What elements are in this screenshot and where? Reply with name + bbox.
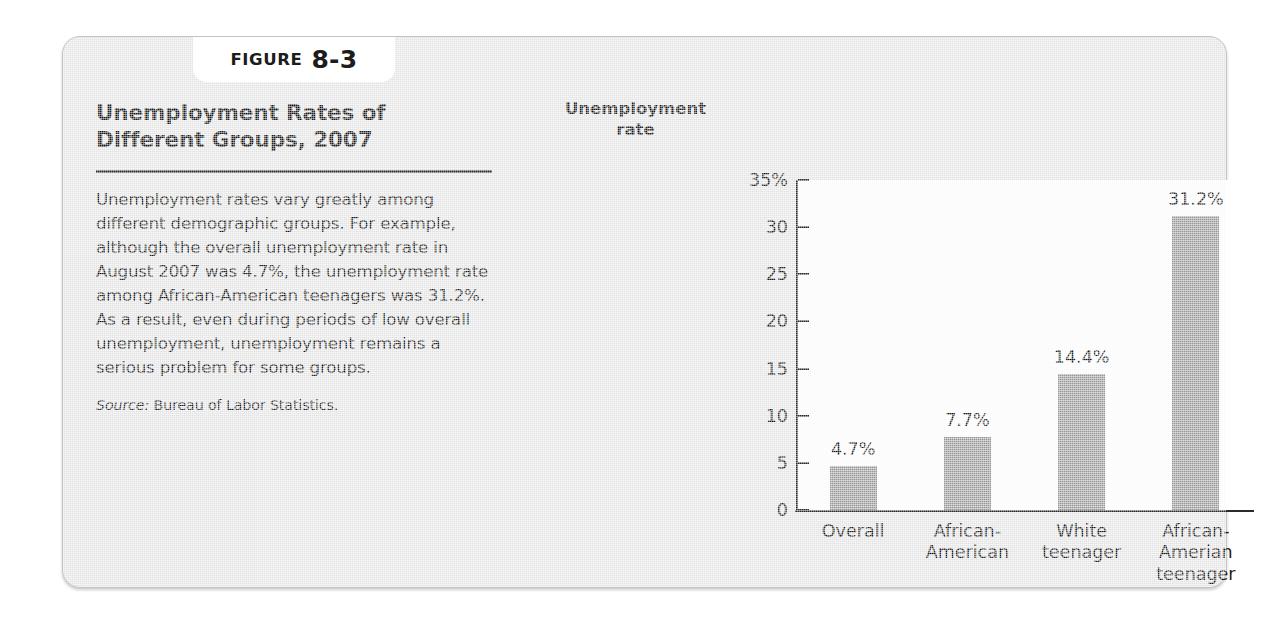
y-tick-label: 20 [724,311,788,331]
figure-body-text: Unemployment rates vary greatly among di… [96,188,496,380]
y-tick-mark [798,415,809,417]
bar-value-label: 31.2% [1136,189,1256,209]
y-tick-label: 30 [724,217,788,237]
figure-title: Unemployment Rates of Different Groups, … [96,99,426,153]
x-category-label: Whiteteenager [1022,521,1142,564]
bar [830,466,877,510]
figure-text-column: Unemployment Rates of Different Groups, … [96,99,496,427]
source-label: Source: [96,397,149,413]
x-category-label: Overall [793,521,913,542]
y-tick-label: 5 [724,453,788,473]
x-category-label-line: Amerian [1136,542,1256,563]
x-category-label-line: American [907,542,1027,563]
x-category-label: African-American [907,521,1027,564]
y-tick-label: 35% [724,170,788,190]
bar-value-label: 14.4% [1022,347,1142,367]
y-tick-mark [798,179,809,181]
bar-chart: Unemployment rate 35%302520151050 4.7%7.… [488,99,1208,589]
bar [1172,216,1219,510]
figure-number-tab: FIGURE 8-3 [193,37,395,82]
y-axis-title: Unemployment rate [548,99,723,140]
y-tick-mark [798,226,809,228]
bar [1058,374,1105,510]
source-text: Bureau of Labor Statistics. [154,397,339,413]
y-tick-mark [798,320,809,322]
x-axis-line [795,510,1254,512]
title-divider [96,170,492,173]
x-category-label-line: teenager [1136,564,1256,585]
bar-value-label: 7.7% [907,410,1027,430]
bar [944,437,991,510]
x-category-label-line: African- [907,521,1027,542]
x-category-label-line: African- [1136,521,1256,542]
x-category-label: African-Amerianteenager [1136,521,1256,585]
figure-tab-number: 8-3 [311,45,357,74]
y-tick-mark [798,273,809,275]
y-tick-mark [798,462,809,464]
x-category-label-line: White [1022,521,1142,542]
y-tick-label: 0 [724,500,788,520]
y-tick-mark [798,509,809,511]
y-tick-label: 25 [724,264,788,284]
y-tick-label: 15 [724,359,788,379]
y-tick-label: 10 [724,406,788,426]
figure-root: FIGURE 8-3 Unemployment Rates of Differe… [0,0,1288,631]
figure-panel: FIGURE 8-3 Unemployment Rates of Differe… [62,36,1227,588]
x-category-label-line: Overall [793,521,913,542]
bar-value-label: 4.7% [793,439,913,459]
figure-tab-word: FIGURE [230,50,302,69]
y-tick-mark [798,368,809,370]
figure-source: Source: Bureau of Labor Statistics. [96,397,496,413]
x-category-label-line: teenager [1022,542,1142,563]
